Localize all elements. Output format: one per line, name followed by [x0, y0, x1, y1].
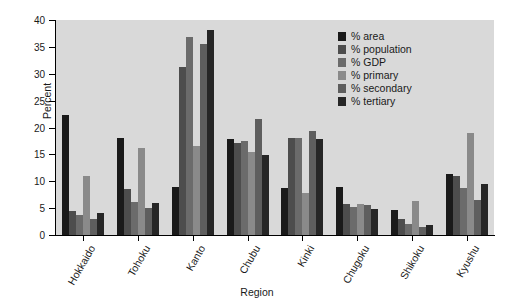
x-tick-label: Chubu [236, 243, 262, 276]
y-tick-label: 0 [19, 230, 45, 241]
bar [117, 138, 124, 235]
x-tick-mark [467, 236, 468, 241]
x-tick-mark [412, 236, 413, 241]
y-tick-label: 15 [19, 149, 45, 160]
bar [405, 224, 412, 235]
y-tick-label: 40 [19, 15, 45, 26]
bar [97, 213, 104, 235]
bar [481, 184, 488, 235]
y-tick-mark [49, 208, 55, 209]
x-tick-mark [83, 236, 84, 241]
y-tick-label: 5 [19, 203, 45, 214]
y-tick-mark [49, 101, 55, 102]
legend-swatch-icon [338, 58, 346, 67]
bar [288, 138, 295, 235]
bars-container [56, 20, 494, 235]
y-tick-mark [49, 47, 55, 48]
bar [419, 227, 426, 235]
x-tick-label: Kanto [183, 243, 207, 273]
legend-swatch-icon [338, 84, 346, 93]
legend-swatch-icon [338, 32, 346, 41]
bar [398, 219, 405, 235]
y-tick-label: 30 [19, 68, 45, 79]
y-tick-mark [49, 20, 55, 21]
bar [131, 202, 138, 235]
bar [371, 209, 378, 235]
bar [446, 174, 453, 235]
bar [200, 44, 207, 235]
y-tick-mark [49, 235, 55, 236]
legend-label: % secondary [351, 83, 412, 94]
legend-label: % primary [351, 70, 398, 81]
legend-label: % tertiary [351, 96, 395, 107]
bar [474, 200, 481, 235]
y-tick-mark [49, 181, 55, 182]
chart-legend: % area% population% GDP% primary% second… [338, 30, 412, 107]
x-tick-label: Tohoku [125, 243, 152, 278]
bar [193, 146, 200, 235]
x-tick-label: Shikoku [397, 243, 426, 281]
x-tick-mark [248, 236, 249, 241]
bar [357, 204, 364, 235]
bar [391, 210, 398, 235]
bar [186, 37, 193, 235]
bar [207, 30, 214, 235]
bar [76, 215, 83, 235]
bar [453, 176, 460, 235]
legend-label: % area [351, 31, 384, 42]
y-tick-mark [49, 74, 55, 75]
legend-swatch-icon [338, 97, 346, 106]
legend-swatch-icon [338, 71, 346, 80]
bar [281, 188, 288, 235]
legend-item: % population [338, 43, 412, 55]
bar [172, 187, 179, 235]
bar [69, 211, 76, 235]
bar [460, 188, 467, 235]
legend-label: % population [351, 44, 412, 55]
bar [179, 67, 186, 235]
bar [343, 204, 350, 235]
bar-chart-figure: Percent 0510152025303540 HokkaidoTohokuK… [0, 0, 514, 308]
bar [350, 207, 357, 235]
legend-label: % GDP [351, 57, 386, 68]
legend-item: % area [338, 30, 412, 42]
x-tick-mark [302, 236, 303, 241]
x-tick-label: Kyushu [453, 243, 481, 279]
y-tick-mark [49, 128, 55, 129]
y-axis-line [55, 20, 56, 236]
bar [227, 139, 234, 235]
y-tick-label: 20 [19, 122, 45, 133]
bar [124, 189, 131, 235]
bar [262, 155, 269, 235]
y-tick-mark [49, 154, 55, 155]
bar [248, 152, 255, 235]
x-tick-mark [193, 236, 194, 241]
bar [309, 131, 316, 235]
bar [467, 133, 474, 235]
x-axis-line [55, 235, 495, 236]
x-tick-label: Kinki [295, 243, 317, 269]
plot-area [56, 20, 494, 235]
bar [316, 139, 323, 235]
legend-item: % primary [338, 69, 412, 81]
legend-swatch-icon [338, 45, 346, 54]
bar [412, 201, 419, 235]
legend-item: % tertiary [338, 95, 412, 107]
bar [255, 119, 262, 235]
bar [138, 148, 145, 235]
x-axis-label: Region [0, 286, 514, 298]
x-tick-label: Chugoku [340, 243, 371, 285]
bar [295, 138, 302, 235]
bar [145, 208, 152, 235]
bar [241, 141, 248, 235]
bar [302, 193, 309, 235]
bar [90, 219, 97, 235]
bar [152, 203, 159, 235]
x-tick-mark [357, 236, 358, 241]
bar [234, 143, 241, 235]
legend-item: % GDP [338, 56, 412, 68]
bar [426, 225, 433, 235]
bar [62, 115, 69, 235]
y-tick-label: 25 [19, 95, 45, 106]
bar [364, 205, 371, 235]
